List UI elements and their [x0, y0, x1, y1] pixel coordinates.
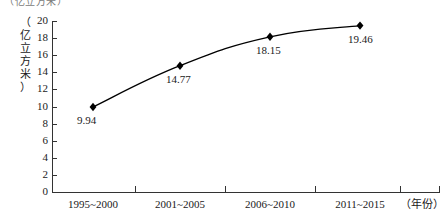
- data-point-marker: [90, 103, 97, 111]
- line-chart: 20181614121086420 1995~20002001~20052006…: [0, 0, 447, 224]
- data-point-label: 9.94: [77, 114, 96, 126]
- data-point-marker: [357, 21, 364, 29]
- data-point-label: 18.15: [256, 44, 281, 56]
- data-point-marker: [267, 33, 274, 41]
- data-series: [0, 0, 447, 224]
- data-point-marker: [177, 62, 184, 70]
- data-point-label: 14.77: [166, 73, 191, 85]
- series-line: [93, 26, 360, 107]
- data-point-label: 19.46: [348, 33, 373, 45]
- chart-screenshot: （亿立方米） 20181614121086420 1995~20002001~2…: [0, 0, 447, 224]
- series-markers: [90, 21, 364, 111]
